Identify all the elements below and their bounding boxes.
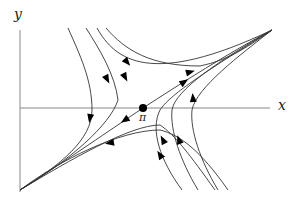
arrow-icon	[122, 57, 133, 68]
lower-left-2-curve	[20, 125, 215, 190]
y-axis-label: y	[14, 6, 22, 22]
phase-portrait	[0, 0, 299, 201]
x-axis-label: x	[278, 97, 286, 113]
lower-right-1-curve	[156, 30, 272, 190]
lower-left-1-curve	[20, 130, 228, 190]
arrow-icon	[120, 72, 130, 83]
arrow-icon	[179, 76, 190, 87]
arrow-icon	[158, 134, 168, 145]
stable-branch-upper-2-curve	[20, 28, 118, 190]
equilibrium-label: π	[139, 111, 146, 124]
arrow-icon	[189, 93, 197, 103]
arrow-icon	[102, 74, 112, 85]
arrow-icon	[119, 115, 130, 126]
lower-right-2-curve	[172, 30, 272, 190]
